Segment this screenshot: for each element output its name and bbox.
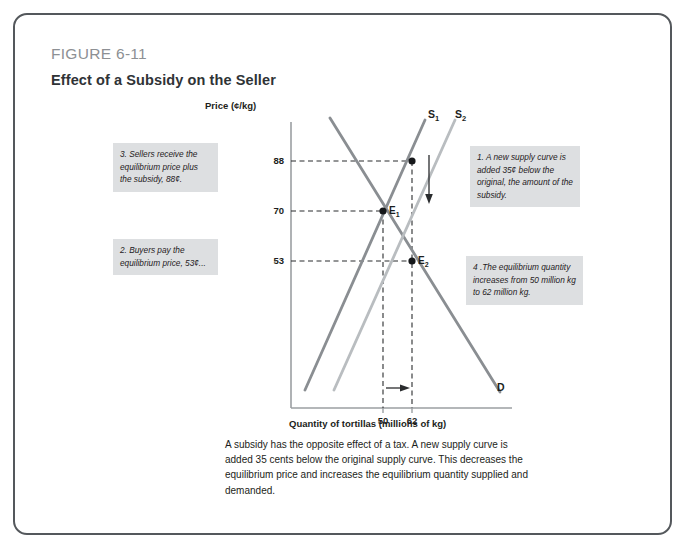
- figure-card: FIGURE 6-11 Effect of a Subsidy on the S…: [13, 13, 672, 535]
- figure-number: FIGURE 6-11: [51, 45, 147, 63]
- page-title: Effect of a Subsidy on the Seller: [51, 72, 276, 88]
